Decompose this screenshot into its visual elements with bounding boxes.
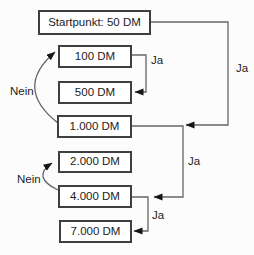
node-1000-dm: 1.000 DM (57, 115, 132, 138)
node-500-dm: 500 DM (58, 81, 132, 104)
edge-label-ja-start-to-1000: Ja (236, 62, 248, 76)
edge-100-to-500-ja (131, 55, 146, 92)
edge-1000-to-4000-ja (132, 126, 183, 197)
node-100-dm: 100 DM (58, 45, 132, 68)
edge-label-nein-4000-to-2000: Nein (17, 173, 41, 187)
edge-label-nein-1000-to-100: Nein (10, 85, 34, 99)
node-4000-dm: 4.000 DM (58, 185, 132, 208)
edge-4000-to-7000-ja (132, 197, 148, 231)
edge-label-ja-100-to-500: Ja (151, 54, 163, 68)
edge-start-to-1000-ja (151, 22, 228, 125)
edge-label-ja-4000-to-7000: Ja (152, 209, 164, 223)
node-7000-dm: 7.000 DM (59, 220, 132, 243)
edge-label-ja-1000-to-4000: Ja (188, 155, 200, 169)
node-startpunkt: Startpunkt: 50 DM (38, 10, 151, 35)
edge-1000-to-100-nein (35, 52, 58, 123)
flowchart-canvas: Startpunkt: 50 DM 100 DM 500 DM 1.000 DM… (0, 0, 254, 255)
edge-4000-to-2000-nein (43, 163, 58, 190)
node-2000-dm: 2.000 DM (58, 151, 132, 173)
